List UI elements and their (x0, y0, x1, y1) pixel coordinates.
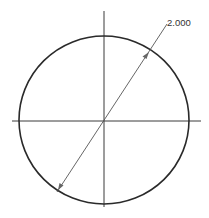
diameter-dimension-label[interactable]: 2.000 (167, 17, 191, 28)
drawing-canvas: 2.000 (0, 0, 209, 218)
diameter-dimension-line[interactable] (57, 24, 167, 192)
dimension-arrowhead-upper (143, 52, 150, 59)
